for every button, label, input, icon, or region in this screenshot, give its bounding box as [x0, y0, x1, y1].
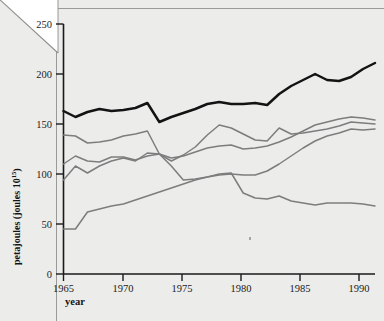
x-tick-label-1965: 1965 — [53, 283, 74, 294]
y-axis-title-main: petajoules (joules 10 — [11, 178, 23, 265]
y-tick-label-150: 150 — [36, 119, 52, 130]
x-tick-label-1970: 1970 — [113, 283, 134, 294]
y-tick-label-250: 250 — [36, 19, 52, 30]
series-line-sector-d — [64, 129, 376, 229]
series-line-sector-a — [64, 122, 376, 161]
svg-text:petajoules (joules 1015): petajoules (joules 1015) — [10, 168, 23, 265]
y-axis-title-close: ) — [11, 168, 23, 171]
x-axis-title: year — [65, 296, 85, 307]
series-layer — [64, 63, 376, 229]
y-tick-marks — [56, 24, 64, 274]
scanned-page: 0 50 100 150 200 250 1965 1970 1975 1980… — [0, 0, 384, 321]
x-tick-label-1985: 1985 — [290, 283, 311, 294]
x-tick-label-1980: 1980 — [231, 283, 252, 294]
y-tick-label-200: 200 — [36, 69, 52, 80]
series-line-sector-c — [64, 153, 376, 206]
y-tick-label-100: 100 — [36, 169, 52, 180]
x-tick-label-1975: 1975 — [172, 283, 193, 294]
y-tick-label-0: 0 — [47, 269, 52, 280]
y-tick-label-50: 50 — [42, 219, 53, 230]
y-axis-title: petajoules (joules 1015) — [10, 168, 23, 265]
series-line-total — [64, 63, 376, 122]
x-tick-marks — [64, 274, 360, 281]
x-tick-label-1990: 1990 — [349, 283, 370, 294]
line-chart: 0 50 100 150 200 250 1965 1970 1975 1980… — [0, 0, 384, 321]
